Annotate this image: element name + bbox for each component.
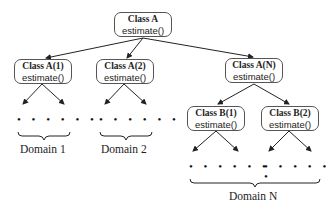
node-class-b2: Class B(2) estimate() xyxy=(261,106,319,131)
brace-domain-1 xyxy=(18,132,70,140)
node-method: estimate() xyxy=(97,72,153,83)
node-title: Class A(1) xyxy=(15,61,71,72)
domain-n-label: Domain N xyxy=(229,190,277,202)
node-method: estimate() xyxy=(188,119,244,130)
ellipsis-domain-2: • • • • • • xyxy=(99,114,180,124)
node-title: Class A(N) xyxy=(226,60,282,71)
node-class-b1: Class B(1) estimate() xyxy=(187,106,245,131)
node-title: Class A xyxy=(115,14,171,25)
node-class-a: Class A estimate() xyxy=(114,12,172,37)
node-method: estimate() xyxy=(115,25,171,36)
domain-1-label: Domain 1 xyxy=(20,143,66,155)
node-title: Class B(2) xyxy=(262,108,318,119)
node-title: Class A(2) xyxy=(97,61,153,72)
node-class-a2: Class A(2) estimate() xyxy=(96,59,154,84)
node-class-an: Class A(N) estimate() xyxy=(225,58,283,83)
brace-domain-2 xyxy=(100,132,152,140)
node-class-a1: Class A(1) estimate() xyxy=(14,59,72,84)
ellipsis-domain-1: • • • • • • xyxy=(17,114,98,124)
domain-2-label: Domain 2 xyxy=(101,143,147,155)
node-title: Class B(1) xyxy=(188,108,244,119)
ellipsis-b1: • • • • • • xyxy=(189,161,270,171)
class-hierarchy-diagram: Class A estimate() Class A(1) estimate()… xyxy=(0,0,333,205)
node-method: estimate() xyxy=(15,72,71,83)
node-method: estimate() xyxy=(226,71,282,82)
node-method: estimate() xyxy=(262,119,318,130)
ellipsis-b2: • • • • • • xyxy=(264,161,333,181)
